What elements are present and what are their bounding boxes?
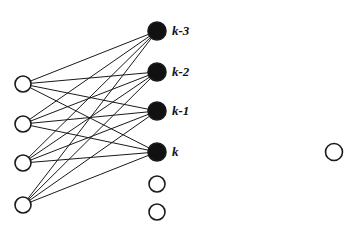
node-label: k-3	[172, 24, 189, 37]
graph-node-open[interactable]	[326, 144, 343, 161]
graph-node-open[interactable]	[149, 204, 165, 220]
graph-node-filled[interactable]	[148, 63, 166, 81]
graph-node-filled[interactable]	[148, 22, 166, 40]
graph-edge	[31, 153, 148, 163]
graph-node-filled[interactable]	[148, 102, 166, 120]
graph-node-open[interactable]	[149, 176, 165, 192]
graph-node-open[interactable]	[15, 116, 31, 132]
node-layer	[15, 22, 343, 220]
graph-edge	[30, 36, 150, 119]
node-label: k-2	[172, 65, 189, 78]
edge-layer	[28, 34, 152, 202]
diagram-canvas: k-3k-2k-1k	[0, 0, 354, 236]
node-label: k	[172, 145, 179, 158]
graph-node-filled[interactable]	[148, 143, 166, 161]
graph-node-open[interactable]	[15, 155, 31, 171]
node-label: k-1	[172, 104, 189, 117]
graph-node-open[interactable]	[15, 76, 31, 92]
graph-edge	[28, 38, 152, 199]
graph-edge	[30, 155, 148, 202]
graph-node-open[interactable]	[15, 197, 31, 213]
